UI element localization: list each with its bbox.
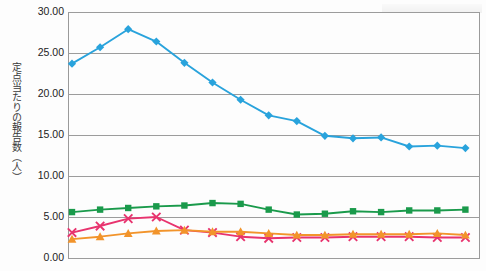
y-tick-label: 15.00 bbox=[22, 128, 64, 140]
series-pink bbox=[68, 213, 470, 243]
data-point-square bbox=[406, 207, 412, 213]
data-point-square bbox=[237, 201, 243, 207]
series-layer bbox=[68, 12, 480, 258]
data-point-diamond bbox=[461, 144, 469, 152]
chart-container: 定点当たりの報告数（人） 30.0025.0020.0015.0010.005.… bbox=[0, 0, 486, 271]
data-point-diamond bbox=[349, 134, 357, 142]
data-point-diamond bbox=[377, 133, 385, 141]
data-point-square bbox=[462, 206, 468, 212]
series-blue-line bbox=[72, 29, 465, 148]
plot-area bbox=[68, 12, 480, 258]
data-point-square bbox=[266, 206, 272, 212]
data-point-square bbox=[378, 209, 384, 215]
data-point-diamond bbox=[405, 142, 413, 150]
y-axis-title: 定点当たりの報告数（人） bbox=[1, 62, 21, 267]
data-point-square bbox=[434, 207, 440, 213]
data-point-diamond bbox=[293, 117, 301, 125]
series-orange bbox=[68, 226, 470, 243]
data-point-square bbox=[97, 206, 103, 212]
data-point-diamond bbox=[321, 132, 329, 140]
data-point-diamond bbox=[68, 60, 76, 68]
y-tick-label: 25.00 bbox=[22, 46, 64, 58]
gridline bbox=[68, 258, 480, 259]
y-tick-label: 10.00 bbox=[22, 169, 64, 181]
data-point-square bbox=[209, 200, 215, 206]
y-axis-tick-labels: 30.0025.0020.0015.0010.005.000.00 bbox=[20, 0, 64, 271]
y-tick-label: 0.00 bbox=[22, 251, 64, 263]
y-tick-label: 30.00 bbox=[22, 5, 64, 17]
data-point-square bbox=[125, 205, 131, 211]
series-green bbox=[69, 200, 469, 218]
data-point-diamond bbox=[265, 111, 273, 119]
data-point-square bbox=[153, 203, 159, 209]
y-tick-label: 20.00 bbox=[22, 87, 64, 99]
data-point-square bbox=[181, 202, 187, 208]
data-point-diamond bbox=[433, 142, 441, 150]
data-point-square bbox=[294, 211, 300, 217]
data-point-square bbox=[322, 211, 328, 217]
data-point-square bbox=[350, 208, 356, 214]
series-blue bbox=[68, 25, 470, 152]
y-tick-label: 5.00 bbox=[22, 210, 64, 222]
data-point-square bbox=[69, 209, 75, 215]
